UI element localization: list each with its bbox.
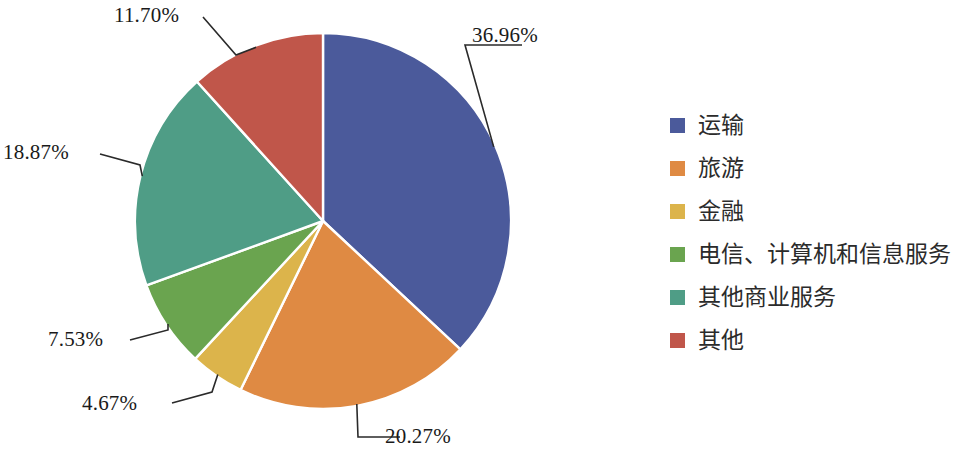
leader-line <box>172 375 218 404</box>
chart-legend: 运输 旅游 金融 电信、计算机和信息服务 其他商业服务 其他 <box>670 104 970 362</box>
legend-swatch-icon <box>670 118 685 133</box>
legend-swatch-icon <box>670 247 685 262</box>
slice-label-other-business: 18.87% <box>3 140 69 165</box>
legend-item-other-business[interactable]: 其他商业服务 <box>670 276 970 319</box>
slice-label-tourism: 20.27% <box>385 424 451 449</box>
slice-label-transport: 36.96% <box>472 23 538 48</box>
legend-label-other-business: 其他商业服务 <box>698 286 836 309</box>
slice-label-other: 11.70% <box>114 3 179 28</box>
slice-label-finance: 4.67% <box>82 391 137 416</box>
chart-plot-area: 36.96% 20.27% 4.67% 7.53% 18.87% 11.70% <box>0 0 660 451</box>
legend-swatch-icon <box>670 290 685 305</box>
legend-label-finance: 金融 <box>698 200 744 223</box>
leader-line <box>130 324 168 340</box>
legend-swatch-icon <box>670 161 685 176</box>
pie-chart-figure: 36.96% 20.27% 4.67% 7.53% 18.87% 11.70% … <box>0 0 971 451</box>
legend-item-transport[interactable]: 运输 <box>670 104 970 147</box>
legend-label-transport: 运输 <box>698 114 744 137</box>
legend-swatch-icon <box>670 204 685 219</box>
pie-chart-svg <box>0 0 660 451</box>
legend-item-telecom[interactable]: 电信、计算机和信息服务 <box>670 233 970 276</box>
legend-label-tourism: 旅游 <box>698 157 744 180</box>
legend-swatch-icon <box>670 333 685 348</box>
slice-label-telecom: 7.53% <box>48 327 103 352</box>
legend-item-other[interactable]: 其他 <box>670 319 970 362</box>
legend-label-other: 其他 <box>698 329 744 352</box>
leader-line <box>100 154 142 176</box>
legend-item-tourism[interactable]: 旅游 <box>670 147 970 190</box>
legend-item-finance[interactable]: 金融 <box>670 190 970 233</box>
pie-slice-group <box>135 33 511 409</box>
legend-label-telecom: 电信、计算机和信息服务 <box>698 243 951 266</box>
